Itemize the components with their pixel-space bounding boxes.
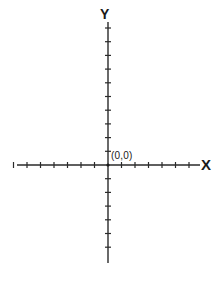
y-axis-label: Y: [100, 7, 109, 21]
origin-label: (0,0): [111, 151, 133, 161]
x-axis-label: X: [201, 157, 211, 172]
axes-graphic: [0, 0, 223, 283]
coordinate-plane: Y X (0,0): [0, 0, 223, 283]
origin-point: [106, 163, 109, 166]
